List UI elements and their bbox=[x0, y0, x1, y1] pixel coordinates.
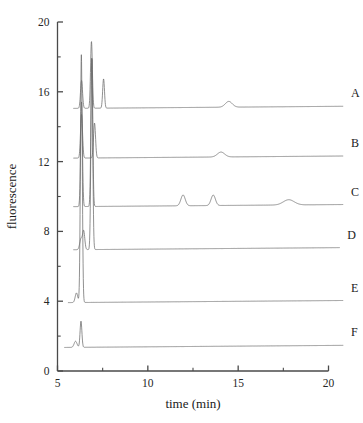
y-axis-title: fluorescence bbox=[4, 163, 19, 229]
trace-label-e: E bbox=[351, 281, 358, 295]
y-tick-label: 20 bbox=[38, 16, 50, 28]
chromatogram-plot: 0481216205101520time (min)fluorescenceAB… bbox=[0, 0, 363, 423]
trace-d bbox=[74, 58, 340, 249]
trace-f bbox=[65, 321, 343, 347]
trace-label-b: B bbox=[351, 136, 359, 150]
trace-label-d: D bbox=[347, 228, 356, 242]
x-tick-label: 15 bbox=[232, 377, 244, 389]
trace-label-a: A bbox=[351, 86, 360, 100]
trace-b bbox=[74, 114, 343, 158]
trace-a bbox=[74, 42, 343, 109]
trace-label-f: F bbox=[351, 325, 358, 339]
trace-c bbox=[74, 59, 343, 207]
trace-e bbox=[68, 55, 342, 303]
y-tick-label: 8 bbox=[44, 225, 50, 237]
x-tick-label: 10 bbox=[142, 377, 154, 389]
chromatogram-figure: 0481216205101520time (min)fluorescenceAB… bbox=[0, 0, 363, 423]
y-tick-label: 4 bbox=[44, 295, 50, 307]
x-axis-title: time (min) bbox=[165, 396, 220, 411]
trace-label-c: C bbox=[351, 185, 359, 199]
y-tick-label: 16 bbox=[38, 86, 50, 98]
x-tick-label: 20 bbox=[323, 377, 335, 389]
x-tick-label: 5 bbox=[55, 377, 61, 389]
y-tick-label: 0 bbox=[44, 365, 50, 377]
y-tick-label: 12 bbox=[38, 156, 50, 168]
